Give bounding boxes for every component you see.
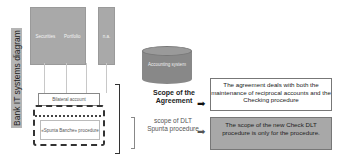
side-label-text: Bank IT systems diagram <box>12 30 22 126</box>
dlt-description-box: The scope of the new Check DLT procedure… <box>210 117 332 150</box>
systems-box: Securities Portfolio <box>30 7 86 65</box>
connector-line <box>86 63 87 93</box>
connector-line <box>44 63 45 93</box>
agreement-description: The agreement deals with both the mainte… <box>211 81 331 103</box>
accounting-system-label: Accounting system <box>142 62 192 67</box>
connector-line <box>106 63 107 93</box>
system-securities: Securities <box>35 34 55 39</box>
spunta-procedure-box: «Spunta Banche» procedure <box>40 120 100 140</box>
arrow-right-icon: ➡ <box>197 98 205 109</box>
dlt-description: The scope of the new Check DLT procedure… <box>222 121 320 136</box>
system-other-box: n.a. <box>98 7 115 65</box>
spunta-procedure-label: «Spunta Banche» procedure <box>41 128 98 133</box>
agreement-description-box: The agreement deals with both the mainte… <box>210 78 332 111</box>
dlt-bracket <box>131 117 135 149</box>
system-other: n.a. <box>103 34 111 39</box>
connector-line <box>66 63 67 93</box>
accounting-system-cylinder: Accounting system <box>142 46 192 84</box>
side-label: Bank IT systems diagram <box>11 28 22 128</box>
scope-agreement-label: Scope of the Agreement <box>150 89 198 105</box>
arrow-right-icon: ➡ <box>197 126 205 137</box>
dlt-dotted-divider <box>35 115 101 118</box>
bilateral-account-label: Bilateral account <box>52 97 85 102</box>
agreement-bracket <box>115 84 120 154</box>
scope-dlt-label: scope of DLT Spunta procedure <box>147 117 199 133</box>
system-portfolio: Portfolio <box>64 34 81 39</box>
